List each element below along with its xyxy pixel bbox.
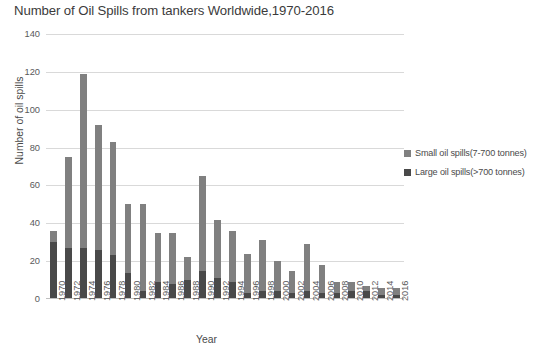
x-tick-label: 2012 <box>370 281 380 301</box>
y-axis-title: Number of oil spills <box>14 61 25 181</box>
x-tick-label: 2004 <box>311 281 321 301</box>
bar-column[interactable] <box>50 231 57 299</box>
y-tick-label: 40 <box>12 218 40 228</box>
x-tick-label: 1976 <box>102 281 112 301</box>
bar-segment-small-spills <box>229 231 236 282</box>
x-tick-label: 2002 <box>296 281 306 301</box>
bar-segment-small-spills <box>80 74 87 248</box>
x-tick-label: 1982 <box>147 281 157 301</box>
x-tick-label: 1990 <box>206 281 216 301</box>
gridline <box>46 72 404 73</box>
legend-swatch-icon <box>404 150 411 157</box>
x-tick-label: 1998 <box>266 281 276 301</box>
x-tick-label: 1996 <box>251 281 261 301</box>
bar-column[interactable] <box>110 142 117 299</box>
bar-segment-small-spills <box>169 233 176 284</box>
y-tick-label: 20 <box>12 256 40 266</box>
x-tick-label: 2014 <box>385 281 395 301</box>
bar-segment-small-spills <box>214 220 221 279</box>
gridline <box>46 34 404 35</box>
chart-title: Number of Oil Spills from tankers Worldw… <box>14 3 334 18</box>
y-tick-label: 140 <box>12 29 40 39</box>
bar-segment-small-spills <box>65 157 72 248</box>
gridline <box>46 110 404 111</box>
x-tick-label: 2000 <box>281 281 291 301</box>
bar-segment-small-spills <box>184 257 191 280</box>
legend-label: Large oil spills(>700 tonnes) <box>415 167 525 177</box>
x-tick-label: 1994 <box>236 281 246 301</box>
x-tick-label: 1970 <box>57 281 67 301</box>
chart-legend: Small oil spills(7-700 tonnes)Large oil … <box>404 148 538 186</box>
bar-segment-large-spills <box>50 242 57 299</box>
x-tick-label: 2006 <box>326 281 336 301</box>
x-axis-title: Year <box>196 334 217 345</box>
legend-item[interactable]: Large oil spills(>700 tonnes) <box>404 167 538 177</box>
legend-label: Small oil spills(7-700 tonnes) <box>415 148 527 158</box>
bar-column[interactable] <box>95 125 102 299</box>
legend-item[interactable]: Small oil spills(7-700 tonnes) <box>404 148 538 158</box>
bar-segment-small-spills <box>95 125 102 250</box>
bar-column[interactable] <box>65 157 72 299</box>
x-tick-label: 2016 <box>400 281 410 301</box>
y-tick-label: 0 <box>12 294 40 304</box>
x-tick-label: 1980 <box>132 281 142 301</box>
plot-area <box>46 34 404 299</box>
x-tick-label: 1984 <box>161 281 171 301</box>
x-tick-label: 1986 <box>176 281 186 301</box>
legend-swatch-icon <box>404 169 411 176</box>
x-tick-label: 1978 <box>117 281 127 301</box>
bar-segment-small-spills <box>50 231 57 242</box>
bar-segment-small-spills <box>110 142 117 256</box>
y-tick-label: 60 <box>12 180 40 190</box>
bar-segment-small-spills <box>155 233 162 282</box>
x-tick-label: 2010 <box>355 281 365 301</box>
x-tick-label: 1992 <box>221 281 231 301</box>
x-tick-label: 1988 <box>191 281 201 301</box>
x-tick-label: 1974 <box>87 281 97 301</box>
bar-segment-small-spills <box>140 204 147 291</box>
x-tick-label: 2008 <box>340 281 350 301</box>
oil-spills-bar-chart: Number of Oil Spills from tankers Worldw… <box>0 0 540 354</box>
x-axis: 1970197219741976197819801982198419861988… <box>46 301 404 335</box>
x-tick-label: 1972 <box>72 281 82 301</box>
bar-column[interactable] <box>80 74 87 299</box>
bar-segment-small-spills <box>199 176 206 271</box>
bar-segment-small-spills <box>125 204 132 272</box>
